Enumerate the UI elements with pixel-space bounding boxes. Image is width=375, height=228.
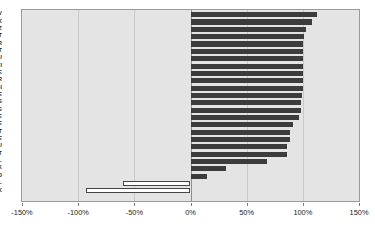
bar-chart: LVSKCZPTFRLTLUFIEEGRSIBEESBGSEIEITDEHUAT… — [0, 0, 375, 228]
bar-HU — [191, 144, 288, 149]
bar-FR — [191, 41, 303, 46]
category-label-LV: LV — [0, 10, 2, 17]
x-tick-label-100: 100% — [293, 208, 312, 217]
bar-PL — [191, 159, 267, 164]
bar-GR — [191, 78, 303, 83]
category-label-BE: BE — [0, 91, 2, 98]
category-label-AT: AT — [0, 150, 2, 157]
category-label-LU: LU — [0, 54, 2, 61]
bar-CZ — [191, 27, 307, 32]
category-label-PL: PL — [0, 157, 2, 164]
category-label-SE: SE — [0, 113, 2, 120]
bar-IE — [191, 122, 293, 127]
x-tick-label--150: -150% — [11, 208, 32, 217]
category-label-FR: FR — [0, 40, 2, 47]
category-label-FI: FI — [0, 62, 2, 69]
category-label-SI: SI — [0, 84, 2, 91]
bar-AT — [191, 152, 288, 157]
x-tick--100 — [78, 203, 79, 206]
x-axis: -150%-100%-50%0%50%100%150% — [21, 203, 360, 225]
bar-IT — [191, 130, 291, 135]
bar-SK — [191, 19, 312, 24]
bar-BE — [191, 93, 302, 98]
category-label-EE: EE — [0, 69, 2, 76]
bar-LV — [191, 12, 318, 17]
category-label-BG: BG — [0, 106, 2, 113]
category-label-ES: ES — [0, 98, 2, 105]
bar-BG — [191, 108, 301, 113]
x-tick-label-0: 0% — [185, 208, 196, 217]
category-label-GR: GR — [0, 76, 2, 83]
bar-SI — [191, 86, 303, 91]
bar-FI — [191, 64, 303, 69]
category-label-SK: SK — [0, 18, 2, 25]
category-label-DK: DK — [0, 187, 2, 194]
bar-PT — [191, 34, 304, 39]
bar-LU — [191, 56, 303, 61]
x-tick-0 — [191, 203, 192, 206]
bar-LT — [191, 49, 303, 54]
category-label-HU: HU — [0, 142, 2, 149]
category-label-CZ: CZ — [0, 25, 2, 32]
x-tick-150 — [359, 203, 360, 206]
x-tick-50 — [247, 203, 248, 206]
bar-SE — [191, 115, 300, 120]
category-label-NL: NL — [0, 179, 2, 186]
x-tick-100 — [303, 203, 304, 206]
category-label-LT: LT — [0, 47, 2, 54]
x-tick-label-50: 50% — [239, 208, 254, 217]
category-label-PT: PT — [0, 32, 2, 39]
category-label-UK: UK — [0, 164, 2, 171]
category-label-IE: IE — [0, 120, 2, 127]
bar-UK — [191, 166, 227, 171]
bar-DE — [191, 137, 291, 142]
category-label-DE: DE — [0, 135, 2, 142]
category-label-IT: IT — [0, 128, 2, 135]
bar-ES — [191, 100, 301, 105]
bar-EE — [191, 71, 303, 76]
x-tick--50 — [134, 203, 135, 206]
category-label-RO: RO — [0, 172, 2, 179]
bar-RO — [191, 174, 208, 179]
x-tick-label--100: -100% — [67, 208, 88, 217]
category-axis-labels: LVSKCZPTFRLTLUFIEEGRSIBEESBGSEIEITDEHUAT… — [0, 9, 190, 202]
x-tick-label-150: 150% — [350, 208, 369, 217]
x-tick--150 — [22, 203, 23, 206]
x-tick-label--50: -50% — [126, 208, 143, 217]
